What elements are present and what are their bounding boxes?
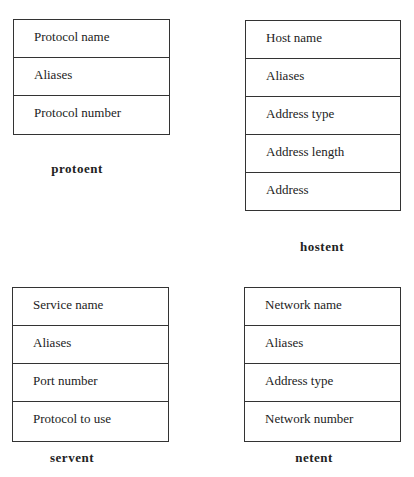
- protoent-field: Protocol number: [14, 96, 169, 134]
- netent-struct: Network name Aliases Address type Networ…: [244, 287, 401, 442]
- protoent-field: Protocol name: [14, 20, 169, 58]
- netent-field: Network name: [245, 288, 400, 326]
- hostent-struct: Host name Aliases Address type Address l…: [245, 20, 401, 211]
- hostent-field: Address type: [246, 97, 400, 135]
- protoent-struct: Protocol name Aliases Protocol number: [13, 19, 170, 135]
- hostent-field: Address: [246, 173, 400, 211]
- hostent-field: Host name: [246, 21, 400, 59]
- protoent-label: protoent: [51, 161, 102, 177]
- hostent-field: Address length: [246, 135, 400, 173]
- netent-field: Network number: [245, 402, 400, 440]
- hostent-field: Aliases: [246, 59, 400, 97]
- servent-field: Aliases: [13, 326, 168, 364]
- protoent-field: Aliases: [14, 58, 169, 96]
- hostent-label: hostent: [300, 239, 344, 255]
- servent-label: servent: [50, 450, 94, 466]
- servent-struct: Service name Aliases Port number Protoco…: [12, 287, 169, 442]
- netent-field: Address type: [245, 364, 400, 402]
- servent-field: Protocol to use: [13, 402, 168, 440]
- netent-label: netent: [295, 450, 333, 466]
- netent-field: Aliases: [245, 326, 400, 364]
- servent-field: Port number: [13, 364, 168, 402]
- servent-field: Service name: [13, 288, 168, 326]
